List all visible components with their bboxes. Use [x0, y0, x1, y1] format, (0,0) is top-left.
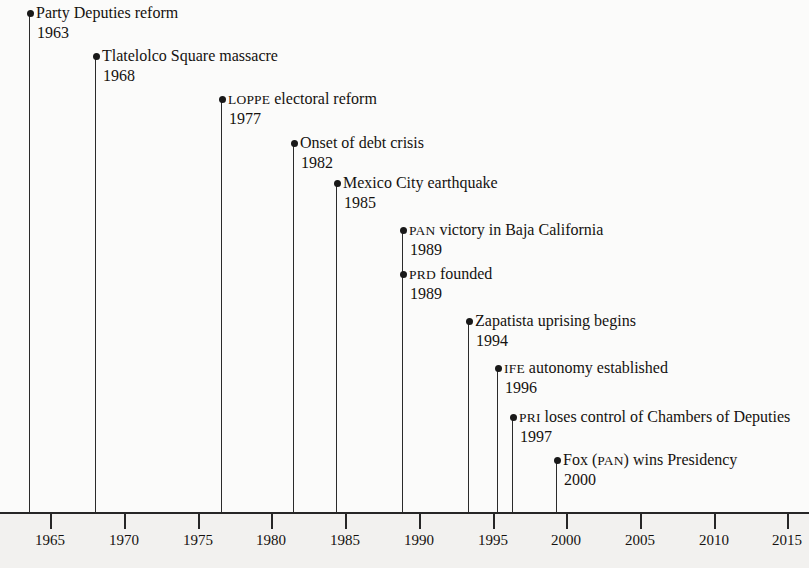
event-year: 2000 [564, 472, 596, 488]
event-stem [221, 101, 222, 512]
event-label: Fox (PAN) wins Presidency [563, 452, 737, 469]
axis-tick [566, 514, 568, 529]
event-stem [512, 419, 513, 512]
event-label: Onset of debt crisis [300, 135, 424, 151]
event-year: 1985 [344, 195, 376, 211]
timeline-figure: Party Deputies reform1963Tlatelolco Squa… [0, 0, 809, 568]
event-label-text: ) wins Presidency [624, 451, 738, 468]
event-label: Party Deputies reform [36, 5, 178, 21]
event-marker-dot[interactable] [554, 457, 561, 464]
axis-tick-label: 2015 [772, 532, 802, 548]
event-label: PRI loses control of Chambers of Deputie… [519, 409, 790, 426]
axis-tick-label: 1980 [256, 532, 286, 548]
event-label-acronym: IFE [504, 361, 525, 376]
event-marker-dot[interactable] [291, 140, 298, 147]
event-label-acronym: PAN [409, 223, 435, 238]
event-stem [556, 462, 557, 512]
event-stem [293, 145, 294, 512]
event-marker-dot[interactable] [27, 10, 34, 17]
event-label-text: Fox ( [563, 451, 597, 468]
event-label: LOPPE electoral reform [228, 91, 377, 108]
event-year: 1989 [410, 242, 442, 258]
event-label-text: victory in Baja California [435, 221, 603, 238]
axis-line [0, 512, 809, 514]
event-stem [402, 276, 403, 512]
event-marker-dot[interactable] [466, 318, 473, 325]
event-label-acronym: PRD [409, 267, 436, 282]
timeline-plot-area: Party Deputies reform1963Tlatelolco Squa… [0, 0, 809, 512]
event-marker-dot[interactable] [400, 227, 407, 234]
event-year: 1982 [301, 155, 333, 171]
axis-tick-label: 1985 [330, 532, 360, 548]
event-stem [468, 323, 469, 512]
axis-tick [493, 514, 495, 529]
event-label-acronym: PRI [519, 410, 541, 425]
event-year: 1968 [103, 68, 135, 84]
axis-tick [50, 514, 52, 529]
axis-tick [124, 514, 126, 529]
event-marker-dot[interactable] [510, 414, 517, 421]
axis-tick [345, 514, 347, 529]
event-label-text: autonomy established [525, 359, 668, 376]
axis-tick-label: 1975 [183, 532, 213, 548]
axis-tick-label: 1965 [35, 532, 65, 548]
event-year: 1994 [476, 333, 508, 349]
event-stem [29, 15, 30, 512]
event-label-acronym: PAN [597, 453, 623, 468]
axis-tick [271, 514, 273, 529]
event-marker-dot[interactable] [334, 180, 341, 187]
axis-tick [419, 514, 421, 529]
axis-tick-label: 1990 [404, 532, 434, 548]
axis-tick [198, 514, 200, 529]
event-label: IFE autonomy established [504, 360, 668, 377]
axis-tick [787, 514, 789, 529]
axis-tick-label: 1995 [478, 532, 508, 548]
event-label-text: founded [436, 265, 492, 282]
event-marker-dot[interactable] [400, 271, 407, 278]
event-year: 1997 [520, 429, 552, 445]
axis-tick-label: 2005 [625, 532, 655, 548]
axis-tick [714, 514, 716, 529]
event-year: 1989 [410, 286, 442, 302]
event-label: Tlatelolco Square massacre [102, 48, 278, 64]
event-label: PAN victory in Baja California [409, 222, 603, 239]
event-label-text: loses control of Chambers of Deputies [541, 408, 791, 425]
event-year: 1963 [37, 25, 69, 41]
event-label: PRD founded [409, 266, 492, 283]
event-label-acronym: LOPPE [228, 92, 270, 107]
event-marker-dot[interactable] [219, 96, 226, 103]
axis-tick [640, 514, 642, 529]
event-stem [497, 370, 498, 512]
event-stem [336, 185, 337, 512]
event-year: 1996 [505, 380, 537, 396]
event-marker-dot[interactable] [495, 365, 502, 372]
event-label: Zapatista uprising begins [475, 313, 636, 329]
event-year: 1977 [229, 111, 261, 127]
axis-tick-label: 2000 [551, 532, 581, 548]
event-label-text: electoral reform [270, 90, 377, 107]
timeline-axis-area: 1965197019751980198519901995200020052010… [0, 512, 809, 568]
axis-tick-label: 1970 [109, 532, 139, 548]
event-marker-dot[interactable] [93, 53, 100, 60]
event-stem [95, 58, 96, 512]
axis-tick-label: 2010 [699, 532, 729, 548]
event-label: Mexico City earthquake [343, 175, 498, 191]
